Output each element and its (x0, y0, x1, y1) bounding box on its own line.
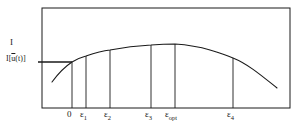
x-tick-label-eps1: ε1 (80, 110, 87, 121)
bracket-close: ] (23, 54, 26, 63)
x-tick-origin-text: 0 (67, 109, 72, 119)
y-axis-label-functional-value: I[u(t)] (6, 55, 26, 63)
x-tick-label-eps3: ε3 (145, 110, 152, 121)
time-argument: (t) (15, 54, 23, 63)
x-tick-eps2-sub: 2 (108, 114, 111, 121)
x-tick-eps4-sub: 4 (231, 114, 234, 121)
x-tick-eps1-sub: 1 (84, 114, 87, 121)
x-tick-label-origin: 0 (67, 110, 72, 121)
x-tick-eps3-sub: 3 (149, 114, 152, 121)
x-tick-label-eps-opt: εopt (165, 110, 177, 121)
x-tick-label-eps4: ε4 (227, 110, 234, 121)
x-tick-label-eps2: ε2 (104, 110, 111, 121)
figure-container: I I[u(t)] 0 ε1 ε2 ε3 εopt ε4 (0, 0, 304, 130)
x-tick-epsopt-sub: opt (169, 114, 177, 121)
y-axis-label-I: I (10, 38, 13, 47)
